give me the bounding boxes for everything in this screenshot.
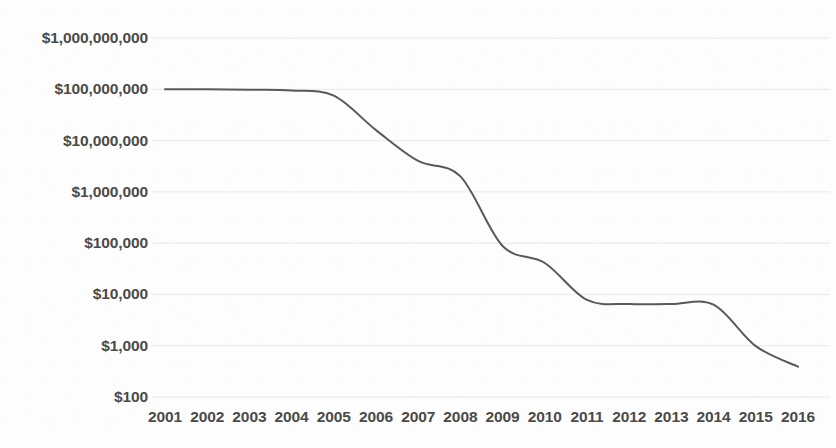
x-axis-tick-label: 2002 bbox=[190, 408, 224, 426]
x-axis-tick-label: 2006 bbox=[359, 408, 393, 426]
chart-container: $1,000,000,000$100,000,000$10,000,000$1,… bbox=[0, 0, 836, 448]
chart-plot-area bbox=[0, 0, 836, 448]
x-axis-tick-label: 2016 bbox=[781, 408, 815, 426]
x-axis-tick-label: 2004 bbox=[275, 408, 309, 426]
x-axis-tick-label: 2007 bbox=[401, 408, 435, 426]
line-series-cost bbox=[165, 89, 798, 366]
x-axis-tick-label: 2005 bbox=[317, 408, 351, 426]
y-axis-tick-label: $1,000,000,000 bbox=[0, 29, 148, 47]
y-axis-tick-label: $10,000,000 bbox=[0, 132, 148, 150]
y-axis-tick-label: $100 bbox=[0, 388, 148, 406]
y-axis-tick-label: $1,000,000 bbox=[0, 183, 148, 201]
y-axis-tick-label: $10,000 bbox=[0, 285, 148, 303]
x-axis-tick-label: 2013 bbox=[654, 408, 688, 426]
y-axis-tick-label: $100,000,000 bbox=[0, 80, 148, 98]
x-axis-tick-label: 2011 bbox=[570, 408, 603, 426]
data-series-line bbox=[165, 89, 798, 366]
x-axis-tick-label: 2015 bbox=[739, 408, 773, 426]
x-axis-tick-label: 2008 bbox=[443, 408, 477, 426]
gridlines bbox=[152, 38, 830, 397]
x-axis-tick-label: 2003 bbox=[232, 408, 266, 426]
x-axis-tick-label: 2010 bbox=[528, 408, 562, 426]
y-axis-tick-label: $100,000 bbox=[0, 234, 148, 252]
x-axis-tick-label: 2014 bbox=[697, 408, 731, 426]
y-axis-tick-label: $1,000 bbox=[0, 337, 148, 355]
x-axis-tick-label: 2012 bbox=[612, 408, 646, 426]
x-axis-tick-label: 2009 bbox=[486, 408, 520, 426]
x-axis-tick-label: 2001 bbox=[148, 408, 182, 426]
